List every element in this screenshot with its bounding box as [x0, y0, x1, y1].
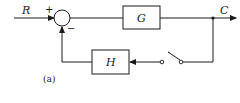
input-label: R	[21, 4, 30, 17]
switch-blade	[168, 52, 180, 60]
block-diagram: R + − G C H (a)	[0, 0, 240, 103]
forward-block-label: G	[137, 12, 146, 25]
plus-sign: +	[45, 4, 53, 15]
feedback-path-right	[183, 18, 213, 62]
figure-caption: (a)	[43, 74, 55, 84]
output-label: C	[220, 4, 229, 17]
feedback-block-label: H	[105, 56, 116, 69]
switch-contact-right	[179, 60, 183, 64]
minus-sign: −	[67, 23, 75, 34]
switch-contact-left	[160, 60, 164, 64]
